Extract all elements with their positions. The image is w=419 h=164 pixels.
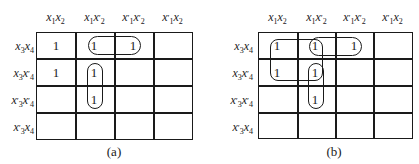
grouping-loop-horizontal xyxy=(88,36,141,55)
cell-value: 1 xyxy=(46,38,66,54)
col-header: x′1x′2 xyxy=(335,10,374,26)
row-header: x′3x′4 xyxy=(0,93,34,109)
row-header: x3x4 xyxy=(0,39,34,55)
row-header: x3x4 xyxy=(219,39,253,55)
row-header: x′3x4 xyxy=(0,120,34,136)
grouping-loop-vertical xyxy=(308,63,324,109)
cell-value: 1 xyxy=(46,65,66,81)
row-header: x′3x4 xyxy=(219,120,253,136)
grid-line xyxy=(259,85,412,87)
col-header: x1x′2 xyxy=(297,10,336,26)
row-header: x3x′4 xyxy=(0,66,34,82)
col-header: x1x′2 xyxy=(75,10,114,26)
grid-line xyxy=(259,112,412,114)
col-header: x1x2 xyxy=(258,10,297,26)
row-header: x3x′4 xyxy=(219,66,253,82)
grouping-loop-horizontal xyxy=(309,37,362,56)
col-header: x1x2 xyxy=(36,10,75,26)
caption: (a) xyxy=(94,144,134,160)
karnaugh-map-b: x1x2 x1x′2 x′1x′2 x′1x2 x3x4 x3x′4 x′3x′… xyxy=(210,0,419,164)
col-header: x′1x2 xyxy=(373,10,412,26)
grid-line xyxy=(37,112,192,114)
grid-line xyxy=(37,85,192,87)
karnaugh-map-a: x1x2 x1x′2 x′1x′2 x′1x2 x3x4 x3x′4 x′3x′… xyxy=(0,0,210,164)
col-header: x′1x2 xyxy=(153,10,192,26)
grouping-loop-vertical xyxy=(87,63,103,109)
caption: (b) xyxy=(314,144,354,160)
grid-line xyxy=(37,58,192,60)
row-header: x′3x′4 xyxy=(219,93,253,109)
col-header: x′1x′2 xyxy=(114,10,153,26)
